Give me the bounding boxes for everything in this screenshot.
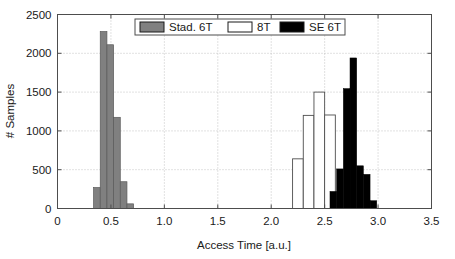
y-tick-label: 500 [32,164,51,176]
y-tick-label: 0 [45,203,51,215]
figure-background [0,0,455,259]
x-tick-label: 1.5 [210,215,226,227]
chart-legend: Stad. 6T8TSE 6T [135,19,345,35]
x-tick-label: 1.0 [156,215,172,227]
histogram-figure: Access Time [a.u.] # Samples Stad. 6T8TS… [0,0,455,259]
histogram-bar [127,204,134,209]
x-axis-label: Access Time [a.u.] [197,239,291,251]
histogram-bar [330,191,337,208]
x-tick-label: 2.0 [263,215,279,227]
y-tick-label: 2000 [26,47,52,59]
histogram-bar [94,188,101,209]
x-tick-label: 0 [54,215,60,227]
x-tick-label: 3.5 [424,215,440,227]
y-tick-label: 1500 [26,86,52,98]
access-time-histogram-svg: Access Time [a.u.] # Samples Stad. 6T8TS… [0,0,455,259]
histogram-bar [314,92,325,208]
histogram-bar [293,159,304,209]
x-tick-label: 3.0 [370,215,386,227]
y-tick-label: 2500 [26,9,52,21]
legend-label: 8T [257,21,270,33]
histogram-bar [303,115,314,208]
x-tick-label: 0.5 [103,215,119,227]
legend-label: Stad. 6T [169,21,212,33]
y-axis-label: # Samples [4,84,16,139]
histogram-bar [100,32,107,209]
histogram-bar [120,182,127,209]
histogram-bar [363,174,370,208]
histogram-bar [343,89,350,209]
histogram-bar [370,201,377,209]
histogram-bar [357,166,364,209]
histogram-bar [114,117,121,208]
y-tick-label: 1000 [26,125,52,137]
histogram-bar [337,169,344,209]
histogram-bar [350,58,357,209]
legend-swatch [280,22,304,32]
legend-swatch [228,22,252,32]
legend-swatch [140,22,164,32]
x-tick-label: 2.5 [317,215,333,227]
histogram-bar [107,45,114,209]
legend-label: SE 6T [309,21,341,33]
